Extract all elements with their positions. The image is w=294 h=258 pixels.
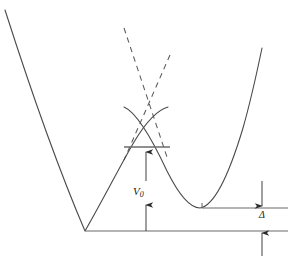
potential-energy-diagram: V0 Δ [0,0,294,258]
barrier-height-label: V0 [133,186,144,199]
barrier-symbol: V [133,185,140,197]
barrier-subscript: 0 [140,190,144,199]
diagram-canvas [0,0,294,258]
left-well-diabatic-extension-dashed [124,28,168,160]
energy-offset-label: Δ [259,210,265,220]
right-well-potential-curve [124,48,262,208]
